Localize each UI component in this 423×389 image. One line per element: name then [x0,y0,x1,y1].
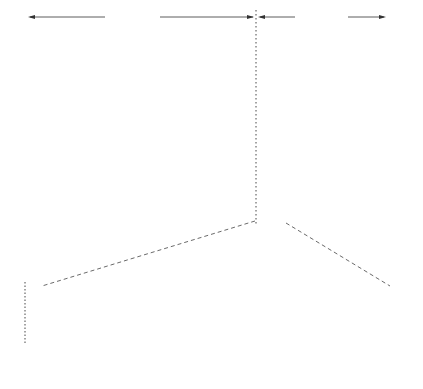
arrow-right-icon [247,15,254,19]
cistron-header [28,15,386,19]
rII-deletion-map [0,0,423,389]
expansion-line-right [286,223,390,286]
arrow-left-icon [28,15,35,19]
expansion-line-left [42,221,255,286]
map-canvas [0,0,423,389]
arrow-right-icon [379,15,386,19]
arrow-left-icon [258,15,265,19]
